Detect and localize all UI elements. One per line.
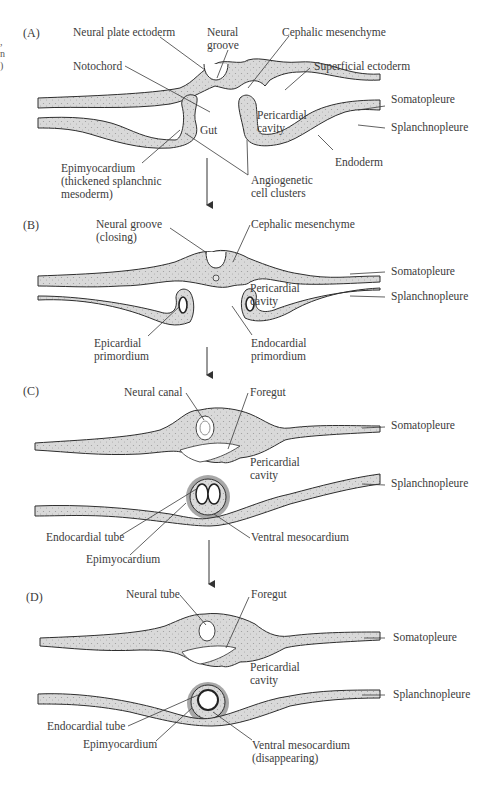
panel-label-a: (A) [23, 26, 40, 41]
label-endoderm: Endoderm [335, 156, 383, 169]
label-epimyocardium-line3: mesoderm) [61, 188, 113, 201]
label-splanchnopleure: Splanchnopleure [391, 477, 468, 490]
label-pericardial-cavity-line1: Pericardial [250, 282, 300, 295]
label-splanchnopleure: Splanchnopleure [391, 121, 468, 134]
label-neural-groove-closing-line1: Neural groove [96, 218, 162, 231]
label-epimyocardium: Epimyocardium [86, 553, 160, 566]
panel-b-drawing [38, 250, 380, 325]
label-ventral-mesocardium-line2: (disappearing) [252, 752, 318, 765]
panel-label-b: (B) [23, 218, 39, 233]
label-epicardial-primordium-line1: Epicardial [94, 337, 141, 350]
label-pericardial-cavity-line2: cavity [250, 674, 278, 687]
label-pericardial-cavity-line2: cavity [257, 122, 285, 135]
label-neural-tube: Neural tube [126, 588, 180, 601]
label-pericardial-cavity-line1: Pericardial [250, 456, 300, 469]
label-angiogenetic-line1: Angiogenetic [251, 174, 313, 187]
label-neural-groove-line1: Neural [207, 26, 238, 39]
label-gut: Gut [200, 124, 217, 137]
label-pericardial-cavity-line1: Pericardial [257, 109, 307, 122]
label-superficial-ectoderm: Superficial ectoderm [314, 60, 410, 73]
label-somatopleure: Somatopleure [391, 265, 455, 278]
panel-d-drawing [38, 613, 380, 726]
label-somatopleure: Somatopleure [393, 631, 457, 644]
embryo-cross-sections-illustration [0, 0, 495, 786]
label-ventral-mesocardium-line1: Ventral mesocardium [252, 739, 350, 752]
label-neural-plate-ectoderm: Neural plate ectoderm [73, 26, 175, 39]
label-splanchnopleure: Splanchnopleure [391, 290, 468, 303]
label-ventral-mesocardium: Ventral mesocardium [251, 531, 349, 544]
label-epimyocardium: Epimyocardium [83, 738, 157, 751]
panel-label-d: (D) [26, 590, 43, 605]
label-pericardial-cavity-line2: cavity [250, 295, 278, 308]
label-endocardial-tube: Endocardial tube [47, 720, 125, 733]
label-notochord: Notochord [73, 60, 122, 73]
label-foregut: Foregut [251, 588, 287, 601]
label-epicardial-primordium-line2: primordium [94, 350, 149, 363]
label-neural-canal: Neural canal [124, 386, 182, 399]
label-pericardial-cavity-line2: cavity [250, 469, 278, 482]
label-somatopleure: Somatopleure [391, 93, 455, 106]
label-pericardial-cavity-line1: Pericardial [250, 661, 300, 674]
label-endocardial-primordium-line2: primordium [251, 350, 306, 363]
label-cephalic-mesenchyme: Cephalic mesenchyme [251, 218, 355, 231]
label-neural-groove-closing-line2: (closing) [96, 231, 137, 244]
label-endocardial-tube: Endocardial tube [46, 531, 124, 544]
label-epimyocardium-line1: Epimyocardium [61, 162, 135, 175]
label-angiogenetic-line2: cell clusters [251, 187, 306, 200]
panel-label-c: (C) [23, 384, 39, 399]
label-foregut: Foregut [250, 386, 286, 399]
label-epimyocardium-line2: (thickened splanchnic [61, 175, 162, 188]
label-splanchnopleure: Splanchnopleure [393, 688, 470, 701]
label-neural-groove-line2: groove [207, 39, 239, 52]
label-endocardial-primordium-line1: Endocardial [251, 337, 307, 350]
label-somatopleure: Somatopleure [391, 419, 455, 432]
panel-c-drawing [35, 408, 380, 526]
label-cephalic-mesenchyme: Cephalic mesenchyme [282, 26, 386, 39]
